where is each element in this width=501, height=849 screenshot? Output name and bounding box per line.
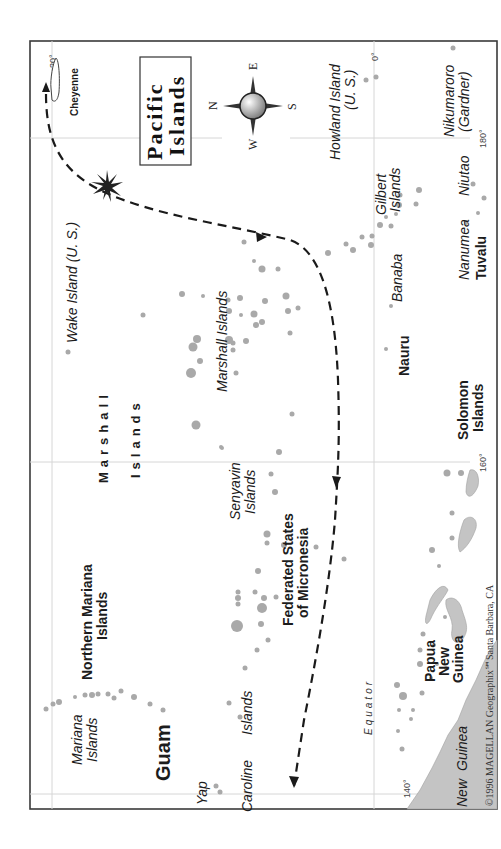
lon-180-label: 180° — [478, 129, 488, 148]
lat-0-label: 0° — [370, 52, 380, 61]
banaba-label: Banaba — [389, 254, 405, 302]
compass-west: W — [246, 138, 260, 150]
new-guinea-line1: New — [454, 778, 470, 807]
tuvalu-label: Tuvalu — [473, 236, 489, 280]
wake-island-label: Wake Island (U. S.) — [64, 222, 80, 343]
senyavin-line1: Senyavin — [227, 462, 243, 520]
equator-label: Equator — [363, 679, 374, 735]
copyright-label: ©1996 MAGELLAN Geographix℠Santa Barbara,… — [484, 584, 495, 806]
title-line2: Islands — [164, 75, 189, 156]
northern-mariana-line2: Islands — [94, 592, 110, 640]
nikumaroro-line1: Nikumaroro — [441, 64, 457, 137]
guam-label: Guam — [152, 724, 174, 781]
png-line3: Guinea — [450, 635, 466, 683]
compass-north: N — [206, 101, 220, 110]
nikumaroro-line2: (Gardner) — [456, 71, 472, 132]
marshall-islands-country-line2: Islands — [128, 398, 143, 478]
new-guinea-line2: Guinea — [454, 726, 470, 771]
caroline-label: Caroline — [239, 760, 255, 812]
northern-mariana-line1: Northern Mariana — [79, 564, 95, 680]
yap-label: Yap — [194, 781, 210, 805]
nanumea-label: Nanumea — [456, 219, 472, 280]
mariana-line2: Islands — [84, 718, 100, 762]
solomon-line2: Islands — [470, 384, 486, 432]
compass-south: S — [285, 103, 299, 110]
compass-east: E — [246, 63, 260, 70]
caroline-islands-label: Islands — [239, 691, 255, 735]
senyavin-line2: Islands — [242, 470, 258, 514]
ship-label: Cheyenne — [69, 68, 80, 116]
gilbert-line2: Islands — [387, 168, 403, 212]
mariana-line1: Mariana — [69, 714, 85, 765]
niutao-label: Niutao — [456, 155, 472, 196]
howland-line2: (U. S.) — [342, 70, 358, 110]
howland-line1: Howland Island — [327, 63, 343, 160]
lon-160-label: 160° — [478, 453, 488, 472]
marshall-islands-group-label: Marshall Islands — [214, 291, 230, 392]
lon-140-label: 140° — [402, 779, 412, 798]
marshall-islands-country-line1: Marshall — [96, 390, 111, 483]
fsm-line1: Federated States — [280, 513, 296, 626]
pacific-islands-map: 20° 0° 180° 160° 140° — [0, 0, 501, 849]
solomon-line1: Solomon — [455, 380, 471, 440]
fsm-line2: of Micronesia — [295, 528, 311, 618]
nauru-label: Nauru — [396, 336, 412, 376]
